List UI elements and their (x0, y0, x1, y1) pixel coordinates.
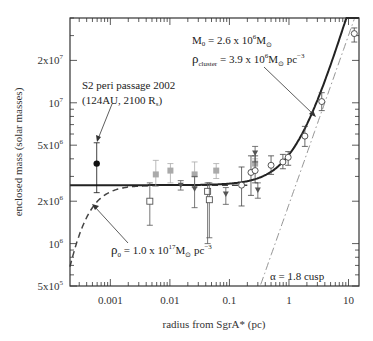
s2-annotation: S2 peri passage 2002 (124AU, 2100 Rs) (82, 79, 175, 142)
y-tick-label: 2x106 (38, 194, 64, 207)
filled-triangle-marker (223, 192, 229, 198)
filled-triangle-marker (192, 186, 198, 192)
open-square-marker (147, 198, 153, 204)
x-tick-label: 10 (343, 294, 355, 306)
data-point (239, 167, 245, 206)
data-point (255, 183, 261, 198)
y-tick-labels: 5x1051062x1065x1061072x107 (38, 53, 64, 292)
x-tick-label: 0.01 (160, 294, 179, 306)
m0-label: M0 = 2.6 x 106M⊙ (192, 33, 272, 49)
filled-square-marker (167, 168, 173, 174)
cluster-arrow (264, 67, 313, 114)
open-circle-marker (280, 159, 286, 165)
data-point (167, 164, 173, 183)
x-tick-label: 0.1 (223, 294, 237, 306)
cluster-annotation: M0 = 2.6 x 106M⊙ ρcluster = 3.9 x 106M⊙ … (192, 33, 316, 117)
data-point (351, 28, 357, 42)
open-square-marker (206, 197, 212, 203)
open-circle-marker (239, 182, 245, 188)
x-axis-label: radius from SgrA* (pc) (163, 318, 266, 331)
open-circle-marker (268, 162, 274, 168)
y-tick-label: 106 (49, 237, 64, 250)
filled-circle-marker (94, 160, 100, 166)
data-point (213, 164, 219, 179)
y-tick-label: 107 (49, 96, 64, 109)
s2-label-line2: (124AU, 2100 Rs) (82, 94, 162, 108)
data-point (147, 183, 153, 225)
data-point (268, 156, 274, 175)
rho-cluster-label: ρcluster = 3.9 x 106M⊙ pc−3 (192, 51, 305, 68)
data-point (223, 188, 229, 205)
s2-label-line1: S2 peri passage 2002 (82, 79, 175, 91)
filled-square-marker (213, 168, 219, 174)
cusp-label: α = 1.8 cusp (270, 270, 325, 282)
open-circle-marker (319, 99, 325, 105)
rho0-label: ρ0 = 1.0 x 1017M⊙ pc−3 (111, 242, 212, 259)
x-tick-label: 0.001 (98, 294, 123, 306)
x-tick-label: 1 (286, 294, 292, 306)
open-circle-marker (302, 133, 308, 139)
filled-triangle-marker (255, 188, 261, 194)
data-point (302, 126, 308, 146)
open-circle-marker (252, 168, 258, 174)
data-point (192, 176, 198, 207)
x-tick-labels: 0.0010.010.1110 (98, 294, 355, 306)
y-tick-label: 5x105 (38, 279, 64, 292)
filled-triangle-marker (252, 150, 258, 156)
s2-arrowhead (96, 135, 101, 142)
rho0-arrow (95, 207, 128, 243)
data-point (153, 160, 159, 186)
rho0-annotation: ρ0 = 1.0 x 1017M⊙ pc−3 (92, 204, 212, 259)
filled-square-marker (153, 171, 159, 177)
y-tick-label: 5x106 (38, 138, 64, 151)
open-circle-marker (351, 31, 357, 37)
y-tick-label: 2x107 (38, 53, 64, 66)
open-circle-marker (285, 154, 291, 160)
s2-arrow (98, 104, 112, 139)
y-axis-label: enclosed mass (solar masses) (12, 87, 25, 216)
enclosed-mass-chart: 0.0010.010.1110 5x1051062x1065x1061072x1… (0, 0, 373, 341)
